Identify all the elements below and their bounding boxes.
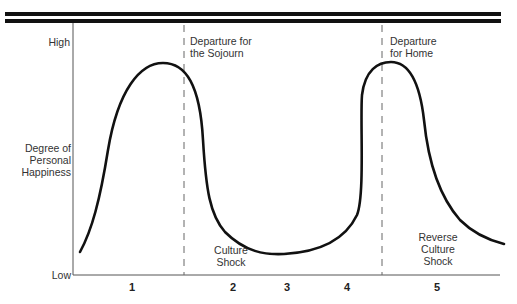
y-axis-title-line: Degree of <box>10 142 71 154</box>
w-curve <box>80 62 504 254</box>
y-axis-low-label: Low <box>30 269 71 281</box>
y-axis-high-label: High <box>30 36 70 48</box>
stage-label-1: 1 <box>129 281 135 293</box>
marker-label-line: Departure for <box>190 35 252 47</box>
reverse-culture-shock-annotation: Reverse Culture Shock <box>413 231 463 267</box>
stage-label-5: 5 <box>434 281 440 293</box>
marker-label-line: for Home <box>390 47 437 59</box>
y-axis-title: Degree of Personal Happiness <box>10 142 71 178</box>
annotation-line: Culture <box>413 243 463 255</box>
annotation-line: Culture <box>206 244 256 256</box>
marker-label-line: the Sojourn <box>190 47 252 59</box>
marker-label-line: Departure <box>390 35 437 47</box>
stage-label-3: 3 <box>284 281 290 293</box>
top-rule-lower <box>5 19 501 23</box>
top-rule-upper <box>5 12 501 16</box>
annotation-line: Shock <box>413 255 463 267</box>
marker-departure-home-label: Departure for Home <box>390 35 437 59</box>
annotation-line: Reverse <box>413 231 463 243</box>
stage-label-2: 2 <box>230 281 236 293</box>
y-axis-title-line: Happiness <box>10 166 71 178</box>
stage-label-4: 4 <box>344 281 350 293</box>
marker-departure-sojourn-label: Departure for the Sojourn <box>190 35 252 59</box>
annotation-line: Shock <box>206 256 256 268</box>
y-axis-title-line: Personal <box>10 154 71 166</box>
culture-shock-annotation: Culture Shock <box>206 244 256 268</box>
